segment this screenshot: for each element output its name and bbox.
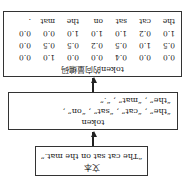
vector-cell: 0.4 <box>103 52 127 64</box>
vector-cell: 0.5 <box>31 40 55 52</box>
vector-row: 1.00.21.01.01.00.00.0 <box>7 28 175 40</box>
vector-encoding-box: token的向量编码 0.00.00.40.00.01.00.00.51.00.… <box>3 11 182 77</box>
vector-cell: 0.0 <box>151 52 175 64</box>
diagram-stage: 文本 “The cat sat on the mat.” token “the”… <box>0 0 185 179</box>
vector-cell: 1.0 <box>55 28 79 40</box>
vector-cell: 1.0 <box>79 28 103 40</box>
vector-cell: 0.5 <box>103 40 127 52</box>
arrow-down-icon <box>93 132 95 146</box>
column-label: cat <box>127 16 151 28</box>
column-label: sat <box>103 16 127 28</box>
vector-cell: 0.0 <box>7 28 31 40</box>
column-label: mat <box>31 16 55 28</box>
vector-row: 0.51.00.50.20.50.50.0 <box>7 40 175 52</box>
column-label: the <box>151 16 175 28</box>
vector-cell: 1.0 <box>127 40 151 52</box>
vector-cell: 0.5 <box>55 40 79 52</box>
vector-cell: 0.0 <box>127 52 151 64</box>
arrow-down-icon <box>93 78 95 92</box>
vector-row: 0.00.00.40.00.01.00.0 <box>7 52 175 64</box>
text-box-title: 文本 <box>36 162 147 172</box>
input-sentence: “The cat sat on the mat.” <box>36 151 147 162</box>
vector-table: 0.00.00.40.00.01.00.00.51.00.50.20.50.50… <box>7 16 175 64</box>
vector-cell: 0.5 <box>151 40 175 52</box>
column-labels-row: thecatsatonthemat. <box>7 16 175 28</box>
vector-cell: 0.0 <box>7 40 31 52</box>
vector-box-title: token的向量编码 <box>4 64 181 74</box>
token-box-title: token <box>9 117 177 127</box>
vector-cell: 1.0 <box>151 28 175 40</box>
vector-cell: 0.2 <box>79 40 103 52</box>
vector-cell: 0.0 <box>7 52 31 64</box>
column-label: on <box>79 16 103 28</box>
token-line-1: “the” , “cat” , “sat” , “on” , <box>9 106 171 117</box>
vector-cell: 0.2 <box>127 28 151 40</box>
column-label: . <box>7 16 31 28</box>
token-line-2: “the” , “mat” , “.” <box>9 95 171 106</box>
vector-cell: 0.0 <box>79 52 103 64</box>
text-box: 文本 “The cat sat on the mat.” <box>35 146 148 176</box>
column-label: the <box>55 16 79 28</box>
vector-cell: 1.0 <box>103 28 127 40</box>
token-box: token “the” , “cat” , “sat” , “on” , “th… <box>8 92 178 130</box>
vector-cell: 0.0 <box>31 28 55 40</box>
vector-cell: 1.0 <box>31 52 55 64</box>
vector-cell: 0.0 <box>55 52 79 64</box>
